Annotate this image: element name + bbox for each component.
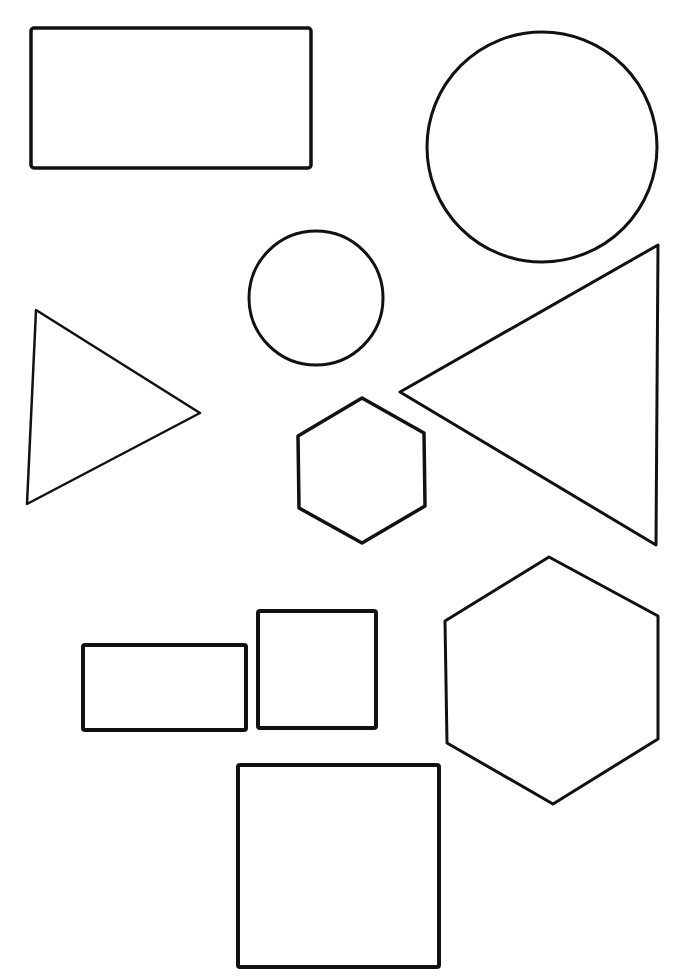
shape-layer	[27, 28, 658, 967]
large-triangle	[400, 245, 658, 545]
small-square	[258, 611, 376, 728]
large-rectangle	[31, 28, 311, 168]
left-triangle	[27, 310, 200, 504]
large-hexagon	[445, 557, 658, 804]
small-rectangle	[83, 645, 246, 730]
large-circle	[427, 32, 657, 262]
shapes-canvas	[0, 0, 692, 980]
small-circle	[249, 231, 383, 365]
small-hexagon	[298, 398, 425, 543]
large-square	[238, 765, 439, 967]
